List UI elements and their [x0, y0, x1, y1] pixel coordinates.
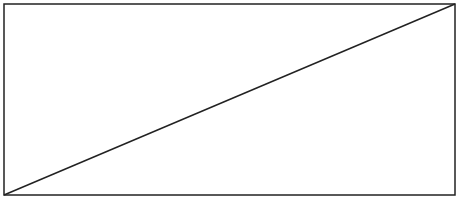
- diagram-canvas: [0, 0, 458, 199]
